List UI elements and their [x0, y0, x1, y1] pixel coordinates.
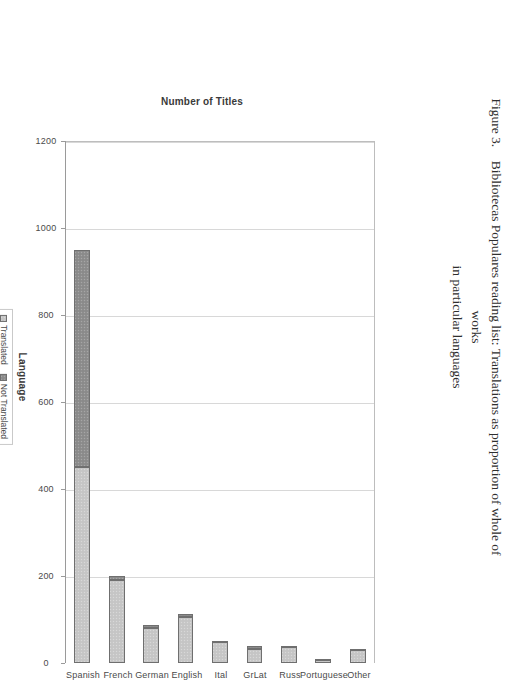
- value-tick-label: 1000: [29, 223, 63, 233]
- bar-chart-plot: 020040060080010001200 SpanishFrenchGerma…: [19, 83, 385, 671]
- value-axis-line: [65, 141, 66, 663]
- bar-segment: [143, 628, 159, 663]
- category-label: Other: [329, 670, 389, 680]
- bar-segment: [350, 649, 366, 651]
- bar-segment: [212, 641, 228, 643]
- figure-caption: Figure 3. Bibliotecas Populares reading …: [455, 92, 499, 562]
- bar-segment: [178, 614, 194, 617]
- caption-line-1: Bibliotecas Populares reading list: Tran…: [470, 161, 505, 556]
- bar-segment: [178, 617, 194, 663]
- gridline: [66, 403, 374, 404]
- category-axis-title: Language: [17, 353, 28, 402]
- value-tick-label: 600: [29, 397, 63, 407]
- bar-segment: [315, 659, 331, 661]
- gridline: [66, 316, 374, 317]
- legend-label: Not Translated: [0, 384, 9, 439]
- gridline: [66, 142, 374, 143]
- value-tick-label: 1200: [29, 136, 63, 146]
- gridline: [66, 229, 374, 230]
- figure-caption-text: Figure 3. Bibliotecas Populares reading …: [448, 92, 507, 562]
- value-tick-label: 800: [29, 310, 63, 320]
- value-tick-label: 400: [29, 484, 63, 494]
- value-tick-label: 0: [29, 658, 63, 668]
- bar-segment: [281, 646, 297, 648]
- gridline: [66, 490, 374, 491]
- value-tick-label: 200: [29, 571, 63, 581]
- legend-label: Translated: [0, 325, 9, 365]
- bar-segment: [350, 650, 366, 663]
- bar-segment: [247, 646, 263, 649]
- rotated-chart: 020040060080010001200 SpanishFrenchGerma…: [19, 83, 385, 671]
- bar-segment: [109, 580, 125, 663]
- bar-segment: [212, 642, 228, 663]
- bar-segment: [74, 250, 90, 468]
- legend-item: Not Translated: [0, 374, 9, 439]
- caption-line-2: in particular languages: [448, 92, 468, 562]
- legend-item: Translated: [0, 315, 9, 365]
- legend-swatch: [1, 315, 8, 322]
- caption-figure-number: Figure 3.: [489, 98, 504, 147]
- bar-segment: [247, 649, 263, 663]
- bar-segment: [143, 625, 159, 628]
- legend-swatch: [1, 374, 8, 381]
- bar-segment: [281, 647, 297, 663]
- chart-legend: TranslatedNot Translated: [0, 309, 13, 445]
- bar-segment: [109, 576, 125, 580]
- value-axis-title: Number of Titles: [142, 96, 262, 107]
- bar-segment: [74, 467, 90, 663]
